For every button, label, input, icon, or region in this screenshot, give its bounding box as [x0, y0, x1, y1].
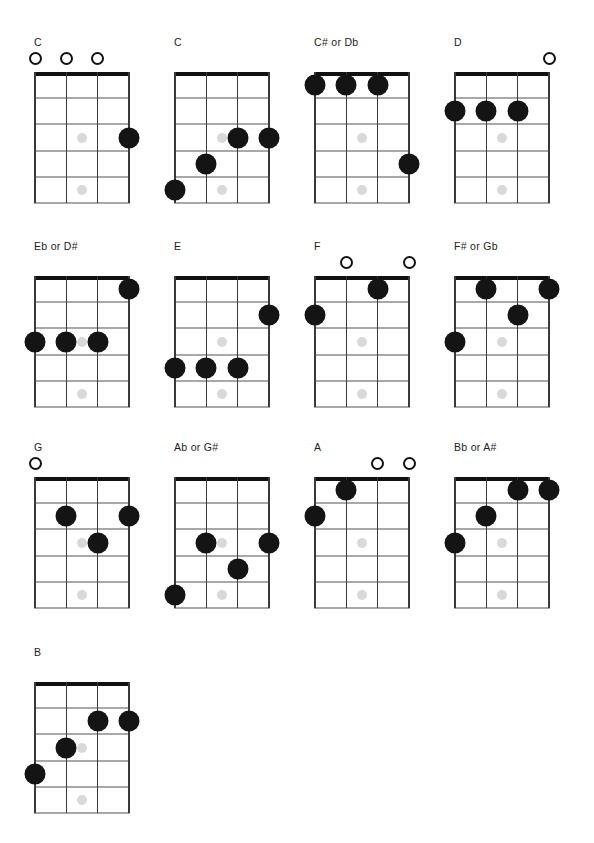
- open-strings-row: [28, 660, 168, 680]
- fret-line: [314, 528, 410, 530]
- string-line: [314, 477, 316, 608]
- finger-dot: [305, 506, 326, 527]
- fret-line: [314, 581, 410, 583]
- finger-dot: [367, 279, 388, 300]
- fret-line: [34, 607, 130, 609]
- fretboard-grid: [34, 682, 130, 813]
- fret-line: [34, 528, 130, 530]
- fretboard-inlay-marker: [217, 337, 227, 347]
- string-line: [346, 276, 348, 407]
- fretboard-inlay-marker: [357, 133, 367, 143]
- fret-line: [34, 354, 130, 356]
- open-string-circle-icon: [340, 256, 353, 269]
- chord-diagram-chord-d: D: [448, 36, 588, 241]
- fretboard-inlay-marker: [497, 389, 507, 399]
- fretboard-inlay-marker: [357, 389, 367, 399]
- finger-dot: [259, 127, 280, 148]
- fretboard-inlay-marker: [357, 185, 367, 195]
- fret-line: [454, 502, 550, 504]
- finger-dot: [539, 480, 560, 501]
- finger-dot: [119, 711, 140, 732]
- fret-line: [174, 301, 270, 303]
- nut-line: [34, 276, 130, 280]
- open-strings-row: [448, 254, 588, 274]
- open-strings-row: [168, 455, 308, 475]
- nut-line: [314, 276, 410, 280]
- finger-dot: [25, 331, 46, 352]
- fret-line: [454, 528, 550, 530]
- fretboard-inlay-marker: [77, 743, 87, 753]
- string-line: [314, 276, 316, 407]
- fret-line: [34, 812, 130, 814]
- string-line: [408, 72, 410, 203]
- fret-line: [174, 97, 270, 99]
- nut-line: [454, 477, 550, 481]
- fret-line: [454, 123, 550, 125]
- fret-line: [34, 502, 130, 504]
- open-string-circle-icon: [91, 52, 104, 65]
- fretboard-inlay-marker: [497, 337, 507, 347]
- fretboard-inlay-marker: [77, 538, 87, 548]
- chord-chart-sheet: CCC# or DbDEb or D#EFF# or GbGAb or G#AB…: [0, 0, 594, 843]
- chord-name-label: D: [454, 36, 462, 48]
- open-string-circle-icon: [60, 52, 73, 65]
- fret-line: [314, 97, 410, 99]
- finger-dot: [56, 331, 77, 352]
- string-line: [34, 477, 36, 608]
- string-line: [268, 276, 270, 407]
- finger-dot: [165, 357, 186, 378]
- chord-diagram-chord-c-open: C: [28, 36, 168, 241]
- string-line: [377, 477, 379, 608]
- nut-line: [174, 477, 270, 481]
- fret-line: [454, 150, 550, 152]
- chord-name-label: E: [174, 240, 181, 252]
- finger-dot: [196, 532, 217, 553]
- string-line: [517, 72, 519, 203]
- chord-name-label: F: [314, 240, 321, 252]
- fret-line: [454, 301, 550, 303]
- finger-dot: [119, 279, 140, 300]
- open-strings-row: [448, 50, 588, 70]
- fret-line: [454, 607, 550, 609]
- chord-name-label: A: [314, 441, 321, 453]
- open-string-circle-icon: [371, 457, 384, 470]
- finger-dot: [87, 711, 108, 732]
- open-string-circle-icon: [543, 52, 556, 65]
- finger-dot: [445, 532, 466, 553]
- fret-line: [314, 406, 410, 408]
- fretboard-inlay-marker: [497, 538, 507, 548]
- open-string-circle-icon: [29, 52, 42, 65]
- chord-diagram-chord-bflat-asharp: Bb or A#: [448, 441, 588, 646]
- fret-line: [34, 202, 130, 204]
- finger-dot: [227, 357, 248, 378]
- fretboard-inlay-marker: [77, 133, 87, 143]
- chord-name-label: C# or Db: [314, 36, 358, 48]
- open-strings-row: [168, 50, 308, 70]
- fret-line: [454, 202, 550, 204]
- chord-name-label: G: [34, 441, 42, 453]
- string-line: [34, 682, 36, 813]
- finger-dot: [259, 305, 280, 326]
- fretboard-grid: [174, 72, 270, 203]
- fretboard-inlay-marker: [357, 337, 367, 347]
- fret-line: [34, 176, 130, 178]
- fretboard-inlay-marker: [497, 185, 507, 195]
- finger-dot: [476, 101, 497, 122]
- chord-diagram-chord-e: E: [168, 240, 308, 445]
- finger-dot: [119, 506, 140, 527]
- fret-line: [34, 380, 130, 382]
- chord-diagram-chord-b: B: [28, 646, 168, 843]
- fret-line: [314, 555, 410, 557]
- string-line: [206, 72, 208, 203]
- string-line: [206, 276, 208, 407]
- chord-name-label: F# or Gb: [454, 240, 498, 252]
- fretboard-inlay-marker: [217, 389, 227, 399]
- fretboard-inlay-marker: [77, 795, 87, 805]
- string-line: [66, 72, 68, 203]
- finger-dot: [445, 331, 466, 352]
- fret-line: [34, 327, 130, 329]
- string-line: [548, 72, 550, 203]
- fret-line: [174, 502, 270, 504]
- fret-line: [174, 202, 270, 204]
- fret-line: [174, 581, 270, 583]
